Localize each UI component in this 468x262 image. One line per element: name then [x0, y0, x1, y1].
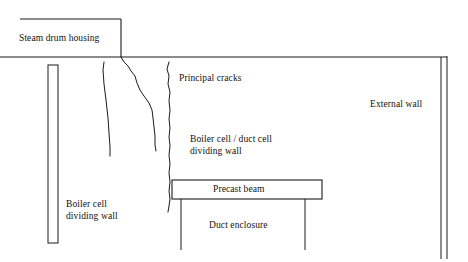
crack-right-line — [167, 62, 170, 212]
label-duct-enclosure: Duct enclosure — [209, 220, 268, 232]
label-precast-beam: Precast beam — [213, 184, 265, 196]
crack-middle-line — [121, 57, 156, 151]
label-boiler-cell-duct-cell-dividing-wall: Boiler cell / duct cell dividing wall — [190, 134, 272, 157]
engineering-diagram: Steam drum housing Principal cracks Exte… — [0, 0, 468, 262]
label-boiler-cell-dividing-wall: Boiler cell dividing wall — [66, 199, 118, 222]
boiler-cell-dividing-wall-outline — [48, 65, 58, 243]
label-principal-cracks: Principal cracks — [179, 73, 242, 85]
label-external-wall: External wall — [370, 99, 422, 111]
principal-cracks-group — [103, 57, 170, 212]
label-steam-drum-housing: Steam drum housing — [19, 33, 99, 45]
external-wall-outline — [441, 56, 447, 259]
crack-left-line — [103, 62, 110, 156]
